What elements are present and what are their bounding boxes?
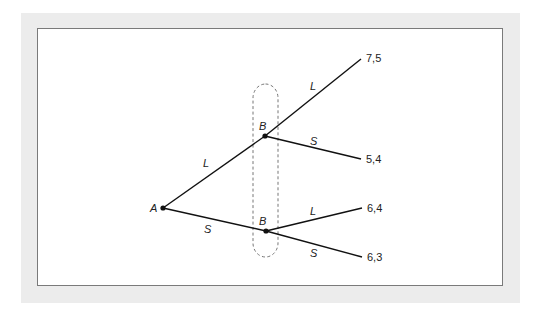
node-a xyxy=(160,205,165,210)
node-b-upper-label: B xyxy=(259,120,266,132)
node-b-lower-label: B xyxy=(259,215,266,227)
edge-a-s xyxy=(163,208,266,231)
edge-b1-l xyxy=(265,59,361,136)
edge-b1-s-label: S xyxy=(310,135,318,147)
payoff-6-4: 6,4 xyxy=(367,202,382,214)
node-a-label: A xyxy=(149,202,157,214)
edge-b2-s-label: S xyxy=(310,247,318,259)
payoff-7-5: 7,5 xyxy=(366,52,381,64)
edge-a-l-label: L xyxy=(203,157,209,169)
edge-b1-l-label: L xyxy=(310,80,316,92)
payoff-5-4: 5,4 xyxy=(366,153,381,165)
node-b-lower xyxy=(263,228,268,233)
payoff-6-3: 6,3 xyxy=(367,251,382,263)
edge-b2-l-label: L xyxy=(310,205,316,217)
node-b-upper xyxy=(262,133,267,138)
edge-a-l xyxy=(163,136,265,208)
game-tree: A B B L S L S L S 7,5 5,4 6,4 6,3 xyxy=(0,0,538,318)
edge-a-s-label: S xyxy=(204,223,212,235)
